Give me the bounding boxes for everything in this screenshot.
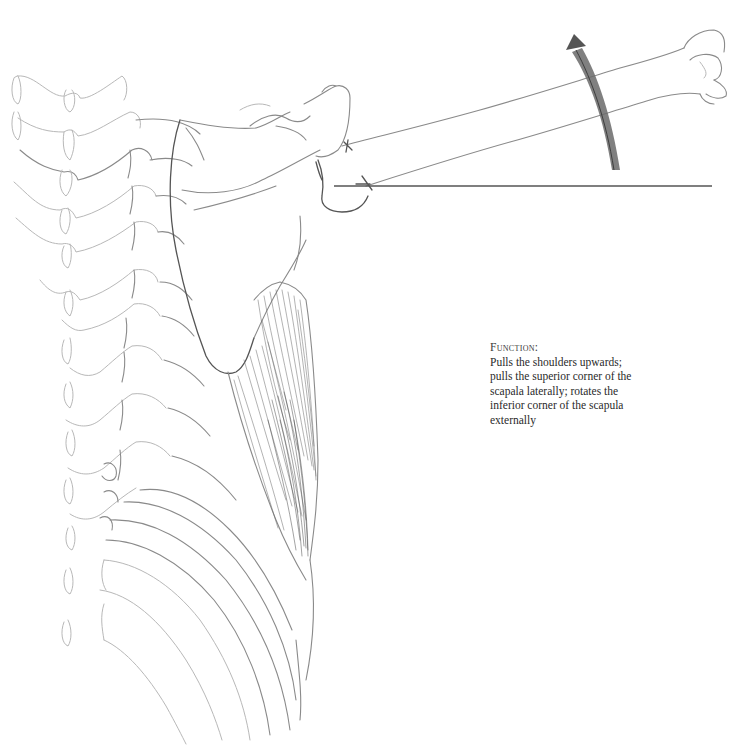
- caption-line: Pulls the shoulders upwards;: [490, 355, 720, 370]
- caption-line: inferior corner of the scapula: [490, 398, 720, 413]
- caption-line: pulls the superior corner of the: [490, 369, 720, 384]
- spine: [12, 76, 170, 646]
- rotation-arrow-icon: [566, 34, 620, 170]
- muscle-shading: [228, 282, 318, 580]
- function-caption: Function: Pulls the shoulders upwards; p…: [490, 340, 720, 427]
- caption-line: externally: [490, 413, 720, 428]
- scapula: [170, 85, 350, 373]
- caption-line: scapala laterally; rotates the: [490, 384, 720, 399]
- ribcage: [100, 119, 313, 744]
- humerus: [316, 30, 726, 212]
- caption-heading: Function:: [490, 340, 720, 355]
